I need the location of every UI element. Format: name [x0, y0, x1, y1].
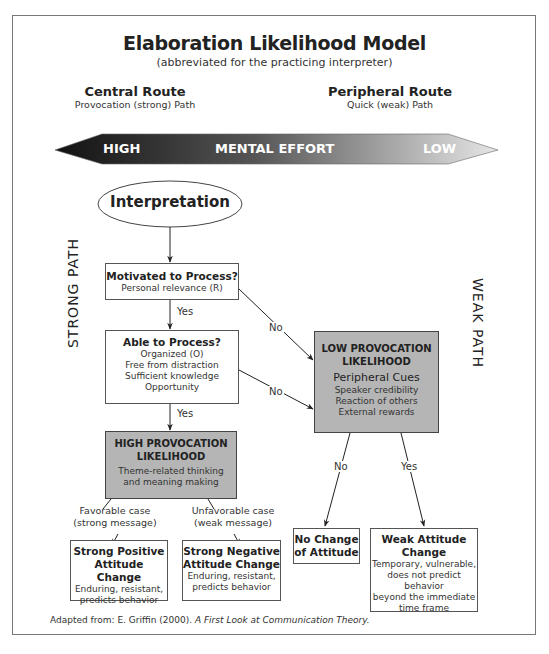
- citation-title: A First Look at Communication Theory.: [195, 615, 370, 625]
- weak-change-line-3: beyond the immediate: [371, 592, 477, 603]
- edge-label-yes-1: Yes: [176, 306, 194, 317]
- strong-positive-heading-1: Strong Positive: [71, 545, 167, 558]
- able-line-1: Organized (O): [106, 349, 238, 360]
- node-weak-attitude-change: Weak Attitude Change Temporary, vulnerab…: [370, 528, 478, 612]
- low-line-3: External rewards: [315, 407, 438, 418]
- strong-positive-line-1: Enduring, resistant,: [71, 584, 167, 595]
- effort-center-label: MENTAL EFFORT: [215, 141, 334, 156]
- edge-label-low-yes: Yes: [400, 461, 418, 472]
- unfavorable-label: Unfavorable case: [178, 505, 288, 517]
- able-line-3: Sufficient knowledge: [106, 371, 238, 382]
- low-sub-heading: Peripheral Cues: [315, 370, 438, 385]
- strong-positive-line-2: predicts behavior: [71, 595, 167, 606]
- node-strong-positive: Strong Positive Attitude Change Enduring…: [70, 540, 168, 601]
- weak-change-heading-1: Weak Attitude: [371, 533, 477, 546]
- effort-low-label: LOW: [423, 141, 456, 156]
- high-line-1: Theme-related thinking: [106, 466, 236, 477]
- high-line-2: and meaning making: [106, 477, 236, 488]
- unfavorable-case-label: Unfavorable case (weak message): [178, 505, 288, 529]
- citation-prefix: Adapted from: E. Griffin (2000).: [50, 615, 195, 625]
- low-heading-2: LIKELIHOOD: [315, 355, 438, 368]
- high-heading-2: LIKELIHOOD: [106, 450, 236, 463]
- node-high-provocation: HIGH PROVOCATION LIKELIHOOD Theme-relate…: [105, 431, 237, 499]
- strong-path-label: STRONG PATH: [65, 233, 81, 353]
- weak-path-label: WEAK PATH: [470, 273, 486, 373]
- motivated-line: Personal relevance (R): [106, 283, 238, 294]
- able-line-4: Opportunity: [106, 382, 238, 393]
- strong-negative-line-1: Enduring, resistant,: [183, 571, 280, 582]
- low-line-2: Reaction of others: [315, 396, 438, 407]
- unfavorable-sub: (weak message): [178, 517, 288, 529]
- strong-negative-heading-2: Attitude Change: [183, 558, 280, 571]
- favorable-sub: (strong message): [60, 517, 170, 529]
- edge-label-yes-2: Yes: [176, 408, 194, 419]
- weak-change-line-2: does not predict behavior: [371, 570, 477, 592]
- node-motivated: Motivated to Process? Personal relevance…: [105, 263, 239, 300]
- high-heading-1: HIGH PROVOCATION: [106, 437, 236, 450]
- edge-label-no-1: No: [268, 322, 284, 333]
- no-change-heading-2: of Attitude: [294, 546, 359, 559]
- citation: Adapted from: E. Griffin (2000). A First…: [50, 615, 370, 625]
- favorable-case-label: Favorable case (strong message): [60, 505, 170, 529]
- weak-change-heading-2: Change: [371, 546, 477, 559]
- favorable-label: Favorable case: [60, 505, 170, 517]
- node-no-change: No Change of Attitude: [293, 528, 360, 564]
- low-heading-1: LOW PROVOCATION: [315, 342, 438, 355]
- edge-label-low-no: No: [333, 461, 349, 472]
- able-heading: Able to Process?: [106, 335, 238, 349]
- motivated-heading: Motivated to Process?: [106, 269, 238, 283]
- node-low-provocation: LOW PROVOCATION LIKELIHOOD Peripheral Cu…: [314, 331, 439, 433]
- node-strong-negative: Strong Negative Attitude Change Enduring…: [182, 540, 281, 601]
- effort-high-label: HIGH: [103, 141, 140, 156]
- strong-positive-heading-2: Attitude Change: [71, 558, 167, 584]
- node-able: Able to Process? Organized (O) Free from…: [105, 330, 239, 404]
- strong-negative-line-2: predicts behavior: [183, 582, 280, 593]
- weak-change-line-1: Temporary, vulnerable,: [371, 559, 477, 570]
- node-interpretation: Interpretation: [98, 193, 242, 211]
- weak-change-line-4: time frame: [371, 603, 477, 614]
- no-change-heading-1: No Change: [294, 533, 359, 546]
- low-line-1: Speaker credibility: [315, 385, 438, 396]
- able-line-2: Free from distraction: [106, 360, 238, 371]
- edge-label-no-2: No: [268, 386, 284, 397]
- strong-negative-heading-1: Strong Negative: [183, 545, 280, 558]
